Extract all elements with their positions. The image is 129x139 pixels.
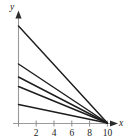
y-axis-label: y [9, 2, 15, 12]
data-line-1 [19, 26, 108, 123]
plot-canvas: 2 4 6 8 10 x y [0, 0, 129, 139]
x-tick-label-8: 8 [87, 128, 92, 138]
x-tick-label-6: 6 [69, 128, 74, 138]
x-axis-label: x [118, 118, 124, 128]
x-tick-label-10: 10 [103, 128, 113, 138]
data-lines [19, 26, 108, 123]
data-line-3 [19, 77, 108, 123]
y-axis-arrowhead [15, 11, 21, 19]
data-line-4 [19, 87, 108, 124]
x-tick-label-4: 4 [52, 128, 57, 138]
x-axis-arrowhead [110, 120, 118, 126]
x-tick-label-2: 2 [34, 128, 39, 138]
graph-figure: 2 4 6 8 10 x y [0, 0, 129, 139]
